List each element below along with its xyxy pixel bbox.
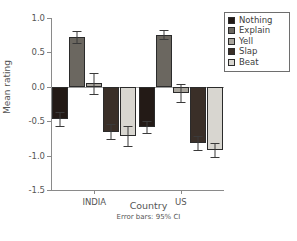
- error-bar-cap-upper: [73, 31, 82, 32]
- legend-swatch-beat: [228, 59, 235, 66]
- error-bar-cap-upper: [107, 124, 116, 125]
- y-axis-tick-label: 0.0: [31, 83, 45, 92]
- error-bar-explain-india: [69, 31, 85, 43]
- x-axis-tick: [94, 190, 95, 194]
- legend-swatch-yell: [228, 38, 235, 45]
- error-bar-stem: [180, 84, 181, 102]
- y-axis-tick-label: 0.5: [31, 48, 45, 57]
- x-axis-title: Country: [0, 200, 297, 211]
- error-bar-stem: [214, 143, 215, 157]
- error-bar-cap-upper: [124, 126, 133, 127]
- x-axis-tick: [181, 190, 182, 194]
- error-bar-stem: [60, 112, 61, 126]
- y-axis-tick-label: -1.5: [28, 186, 45, 195]
- error-bar-nothing-india: [52, 112, 68, 126]
- y-axis-tick-label: -0.5: [28, 117, 45, 126]
- error-bar-cap-lower: [210, 157, 219, 158]
- error-bar-cap-lower: [124, 146, 133, 147]
- error-bar-slap-us: [190, 136, 206, 150]
- legend-item-explain: Explain: [228, 26, 286, 36]
- legend-item-yell: Yell: [228, 36, 286, 46]
- error-bar-stem: [197, 136, 198, 150]
- error-bar-cap-lower: [73, 43, 82, 44]
- error-bar-yell-us: [173, 84, 189, 102]
- error-bar-cap-upper: [193, 136, 202, 137]
- x-axis-line: [51, 190, 224, 191]
- error-bar-stem: [146, 121, 147, 133]
- legend-label-yell: Yell: [239, 37, 253, 46]
- legend-label-nothing: Nothing: [239, 16, 272, 25]
- error-bar-cap-upper: [142, 121, 151, 122]
- legend-item-nothing: Nothing: [228, 15, 286, 25]
- error-bar-cap-upper: [159, 30, 168, 31]
- y-axis-tick-label: 1.0: [31, 14, 45, 23]
- legend-swatch-explain: [228, 27, 235, 34]
- error-bar-cap-lower: [142, 133, 151, 134]
- error-bar-cap-upper: [210, 143, 219, 144]
- error-bar-cap-upper: [176, 84, 185, 85]
- bar-slap-us: [190, 87, 206, 143]
- legend-swatch-nothing: [228, 17, 235, 24]
- y-axis-title: Mean rating: [2, 60, 12, 114]
- error-bar-nothing-us: [139, 121, 155, 133]
- legend-label-slap: Slap: [239, 47, 257, 56]
- error-bar-cap-lower: [90, 94, 99, 95]
- legend-swatch-slap: [228, 48, 235, 55]
- error-bar-annotation: Error bars: 95% CI: [0, 213, 297, 221]
- mean-rating-bar-chart: Mean rating 1.00.50.0-0.5-1.0-1.5 INDIAU…: [0, 0, 297, 241]
- error-bar-stem: [163, 30, 164, 39]
- error-bar-cap-lower: [193, 150, 202, 151]
- error-bar-cap-lower: [176, 102, 185, 103]
- error-bar-cap-lower: [107, 139, 116, 140]
- y-axis-tick: [47, 190, 51, 191]
- error-bar-explain-us: [156, 30, 172, 39]
- legend: NothingExplainYellSlapBeat: [224, 12, 290, 72]
- error-bar-stem: [111, 124, 112, 139]
- error-bar-stem: [128, 126, 129, 146]
- y-axis-tick-label: -1.0: [28, 151, 45, 160]
- legend-label-beat: Beat: [239, 58, 259, 67]
- legend-item-beat: Beat: [228, 57, 286, 67]
- plot-area: 1.00.50.0-0.5-1.0-1.5 INDIAUS: [51, 18, 224, 190]
- error-bar-cap-lower: [56, 126, 65, 127]
- error-bar-yell-india: [86, 73, 102, 94]
- error-bar-cap-upper: [90, 73, 99, 74]
- error-bar-slap-india: [103, 124, 119, 139]
- bar-explain-us: [156, 35, 172, 87]
- error-bar-beat-india: [120, 126, 136, 146]
- error-bar-stem: [77, 31, 78, 43]
- error-bar-cap-upper: [56, 112, 65, 113]
- bars-layer: [51, 18, 224, 190]
- legend-label-explain: Explain: [239, 26, 270, 35]
- error-bar-stem: [94, 73, 95, 94]
- bar-beat-us: [207, 87, 223, 150]
- bar-explain-india: [69, 37, 85, 87]
- error-bar-cap-lower: [159, 39, 168, 40]
- legend-item-slap: Slap: [228, 47, 286, 57]
- error-bar-beat-us: [207, 143, 223, 157]
